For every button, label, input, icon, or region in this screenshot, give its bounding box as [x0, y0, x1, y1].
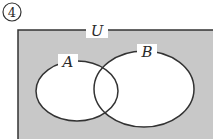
- problem-number: 4: [3, 3, 21, 21]
- set-b-label: B: [140, 43, 152, 61]
- universe-label: U: [91, 22, 105, 40]
- venn-diagram: 4 U A B: [0, 0, 213, 139]
- set-a-label: A: [61, 53, 74, 71]
- svg-text:4: 4: [8, 5, 16, 20]
